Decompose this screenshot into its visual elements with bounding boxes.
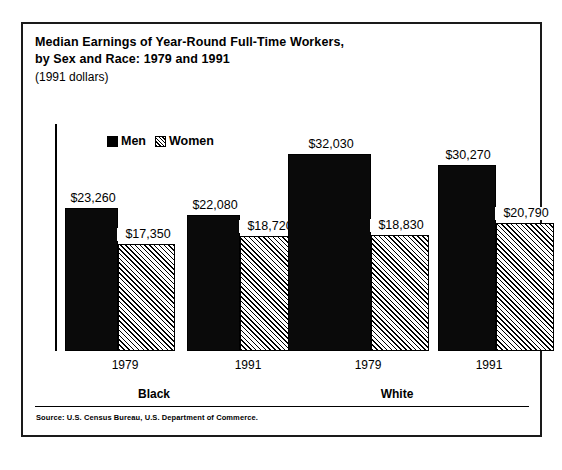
x-axis-group-label-white: White	[367, 387, 427, 401]
x-axis-year-label-2: 1991	[218, 358, 278, 372]
x-axis-year-label-4: 1991	[459, 358, 519, 372]
x-axis-year-label-1: 1979	[95, 358, 155, 372]
bar-value-label-white-1979-women: $18,830	[370, 219, 432, 232]
plot-area: $23,260$17,350$22,080$18,720$32,030$18,8…	[34, 24, 544, 374]
source-divider	[35, 406, 529, 407]
bar-black-1979-women	[118, 244, 175, 351]
bar-black-1979-men	[65, 208, 118, 351]
bar-value-label-black-1991-men: $22,080	[184, 199, 246, 212]
bar-white-1979-women	[371, 235, 429, 351]
bar-value-label-black-1979-women: $17,350	[117, 228, 179, 241]
chart-figure-frame: Median Earnings of Year-Round Full-Time …	[21, 22, 542, 437]
x-axis-group-label-black: Black	[124, 387, 184, 401]
bar-value-label-white-1991-women: $20,790	[495, 207, 557, 220]
x-axis-year-label-3: 1979	[338, 358, 398, 372]
bar-value-label-white-1991-men: $30,270	[437, 149, 499, 162]
bar-white-1991-women	[496, 223, 554, 351]
bar-black-1991-men	[187, 215, 240, 351]
bars-layer: $23,260$17,350$22,080$18,720$32,030$18,8…	[34, 24, 544, 351]
bar-value-label-black-1979-men: $23,260	[62, 192, 124, 205]
bar-white-1991-men	[438, 165, 496, 351]
source-note: Source: U.S. Census Bureau, U.S. Departm…	[36, 413, 258, 422]
bar-value-label-white-1979-men: $32,030	[300, 138, 362, 151]
bar-white-1979-men	[288, 154, 371, 351]
